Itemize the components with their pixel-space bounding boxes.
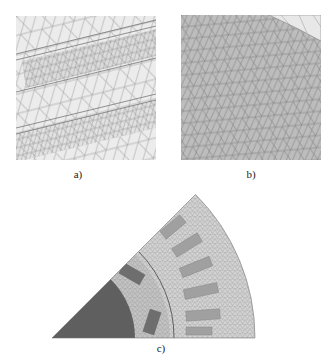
mesh-a-graphic [16,16,156,160]
mesh-b-graphic [181,15,321,160]
panel-a-label: a) [58,168,98,180]
panel-c-label: c) [141,342,181,354]
panel-b-mesh [181,15,321,160]
panel-b-label: b) [231,168,271,180]
panel-a-mesh [16,16,156,160]
panel-c-machine-sector [0,185,334,340]
machine-sector-graphic [0,185,334,340]
